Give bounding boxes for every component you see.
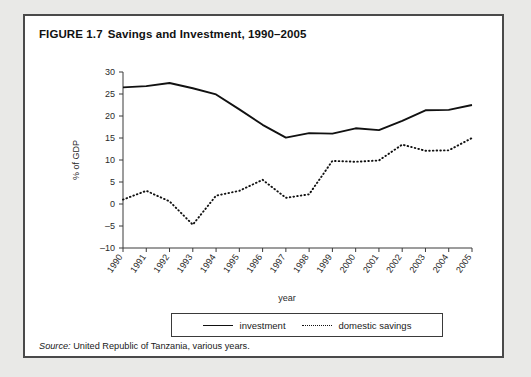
chart-plot-area: –10–5051015202530 1990199119921993199419… [35,50,496,305]
figure-title-text: Savings and Investment, 1990–2005 [108,28,307,40]
y-tick-label: 10 [105,155,115,165]
x-tick-label: 2005 [454,252,474,274]
figure-number: FIGURE 1.7 [39,28,103,40]
x-tick-label: 1993 [175,252,195,274]
x-tick-label: 1990 [105,252,125,274]
figure-title: FIGURE 1.7Savings and Investment, 1990–2… [39,28,307,40]
y-tick-label: –5 [105,221,115,231]
chart-legend: investment domestic savings [171,313,443,337]
x-tick-label: 2000 [338,252,358,274]
x-tick-label: 1992 [151,252,171,274]
legend-entry-investment: investment [203,320,286,331]
x-tick-label: 1998 [291,252,311,274]
x-tick-label: 1999 [314,252,334,274]
y-tick-label: 15 [105,133,115,143]
x-axis-ticks: 1990199119921993199419951996199719981999… [105,248,474,275]
legend-swatch-dotted-icon [302,325,332,326]
source-text: United Republic of Tanzania, various yea… [71,341,250,351]
y-tick-label: 5 [110,177,115,187]
y-axis-ticks: –10–5051015202530 [100,67,123,253]
series-line-domestic-savings [123,138,472,225]
y-tick-label: 25 [105,89,115,99]
series-line-investment [123,83,472,138]
line-chart: –10–5051015202530 1990199119921993199419… [35,50,496,305]
y-tick-label: –10 [100,243,115,253]
x-tick-label: 1997 [268,252,288,274]
x-tick-label: 2002 [384,252,404,274]
x-tick-label: 2004 [431,252,451,274]
y-tick-label: 30 [105,67,115,77]
figure-container: FIGURE 1.7Savings and Investment, 1990–2… [23,14,504,358]
x-tick-label: 1994 [198,252,218,274]
legend-entry-domestic-savings: domestic savings [302,320,412,331]
y-axis-title: % of GDP [71,140,81,180]
x-tick-label: 1995 [221,252,241,274]
legend-label-investment: investment [240,320,286,331]
source-note: Source: United Republic of Tanzania, var… [39,341,250,351]
x-tick-label: 1991 [128,252,148,274]
legend-label-domestic-savings: domestic savings [339,320,412,331]
legend-swatch-solid-icon [203,325,233,326]
x-tick-label: 2001 [361,252,381,274]
y-tick-label: 0 [110,199,115,209]
x-tick-label: 2003 [407,252,427,274]
y-tick-label: 20 [105,111,115,121]
x-axis-title: year [278,293,296,303]
source-label: Source: [39,341,71,351]
x-tick-label: 1996 [245,252,265,274]
